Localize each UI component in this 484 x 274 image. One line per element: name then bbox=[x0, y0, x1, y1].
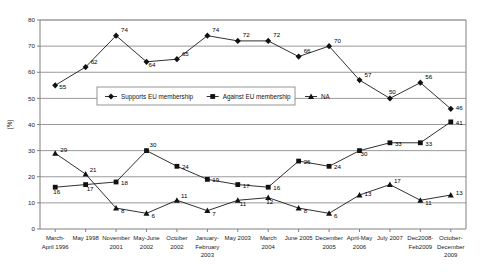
data-value-label: 56 bbox=[425, 73, 432, 80]
data-value-label: 72 bbox=[243, 31, 250, 38]
x-tick-label: May 1998 bbox=[72, 235, 99, 241]
data-value-label: 11 bbox=[181, 192, 188, 199]
marker-square bbox=[388, 140, 393, 145]
marker-square bbox=[114, 180, 119, 185]
y-tick-label: 40 bbox=[28, 121, 35, 128]
data-value-label: 70 bbox=[334, 37, 341, 44]
data-value-label: 65 bbox=[182, 50, 189, 57]
data-value-label: 24 bbox=[334, 163, 341, 170]
data-value-label: 57 bbox=[365, 71, 372, 78]
y-axis-title-text: (%) bbox=[6, 120, 14, 130]
legend-label[interactable]: Against EU membership bbox=[223, 93, 291, 101]
y-axis-title: (%) bbox=[6, 120, 14, 130]
data-value-label: 33 bbox=[395, 140, 402, 147]
data-value-label: 7 bbox=[212, 210, 216, 217]
marker-square bbox=[327, 164, 332, 169]
data-value-label: 30 bbox=[361, 150, 368, 157]
marker-square bbox=[418, 140, 423, 145]
data-value-label: 6 bbox=[334, 212, 338, 219]
data-value-label: 18 bbox=[121, 179, 128, 186]
data-value-label: 64 bbox=[149, 61, 156, 68]
x-tick-label: June 2005 bbox=[285, 235, 314, 241]
y-tick-label: 60 bbox=[28, 68, 35, 75]
data-value-label: 13 bbox=[365, 190, 372, 197]
marker-square bbox=[235, 182, 240, 187]
data-value-label: 62 bbox=[91, 58, 98, 65]
data-value-label: 55 bbox=[59, 83, 66, 90]
data-value-label: 41 bbox=[456, 119, 463, 126]
y-tick-label: 0 bbox=[32, 225, 36, 232]
data-value-label: 19 bbox=[212, 176, 219, 183]
data-value-label: 29 bbox=[60, 146, 67, 153]
marker-square bbox=[266, 185, 271, 190]
y-tick-label: 20 bbox=[28, 173, 35, 180]
x-tick-label: July 2007 bbox=[377, 235, 403, 241]
marker-square bbox=[448, 119, 453, 124]
data-value-label: 12 bbox=[266, 198, 273, 205]
legend-label[interactable]: NA bbox=[321, 93, 331, 100]
marker-square bbox=[144, 148, 149, 153]
data-value-label: 74 bbox=[121, 26, 128, 33]
data-value-label: 17 bbox=[87, 185, 94, 192]
legend-label[interactable]: Supports EU membership bbox=[121, 93, 194, 101]
data-value-label: 74 bbox=[212, 26, 219, 33]
marker-square bbox=[210, 94, 215, 99]
y-tick-label: 50 bbox=[28, 95, 35, 102]
data-value-label: 16 bbox=[53, 188, 60, 195]
marker-square bbox=[175, 164, 180, 169]
x-tick-label: May 2003 bbox=[225, 235, 252, 241]
data-value-label: 30 bbox=[150, 141, 157, 148]
data-value-label: 8 bbox=[121, 207, 125, 214]
marker-square bbox=[205, 177, 210, 182]
data-value-label: 46 bbox=[456, 104, 463, 111]
data-value-label: 26 bbox=[304, 158, 311, 165]
data-value-label: 72 bbox=[273, 31, 280, 38]
data-value-label: 11 bbox=[240, 200, 247, 207]
data-value-label: 13 bbox=[456, 189, 463, 196]
y-tick-label: 10 bbox=[28, 199, 35, 206]
data-value-label: 50 bbox=[389, 88, 396, 95]
data-value-label: 11 bbox=[425, 199, 432, 206]
data-value-label: 17 bbox=[394, 177, 401, 184]
data-value-label: 24 bbox=[182, 163, 189, 170]
line-chart: 01020304050607080 March-April 1996May 19… bbox=[0, 0, 484, 274]
data-value-label: 6 bbox=[152, 212, 156, 219]
y-tick-label: 70 bbox=[28, 42, 35, 49]
data-value-label: 66 bbox=[304, 47, 311, 54]
data-value-label: 33 bbox=[425, 140, 432, 147]
data-value-label: 8 bbox=[304, 207, 308, 214]
data-value-label: 21 bbox=[90, 166, 97, 173]
y-tick-label: 30 bbox=[28, 147, 35, 154]
y-tick-label: 80 bbox=[28, 16, 35, 23]
data-value-label: 16 bbox=[273, 184, 280, 191]
marker-square bbox=[296, 159, 301, 164]
data-value-label: 17 bbox=[243, 182, 250, 189]
chart-canvas: 01020304050607080 March-April 1996May 19… bbox=[0, 0, 484, 274]
